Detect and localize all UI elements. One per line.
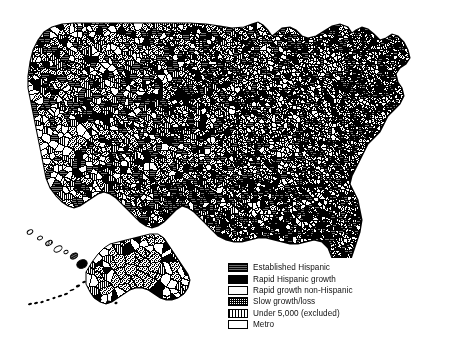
legend-label-metro: Metro xyxy=(253,320,274,329)
legend-item-established-hispanic: Established Hispanic xyxy=(228,262,388,273)
legend-swatch-rapid-growth-non-hispanic xyxy=(228,286,248,295)
map-legend: Established Hispanic Rapid Hispanic grow… xyxy=(228,262,388,330)
legend-item-rapid-growth-non-hispanic: Rapid growth non-Hispanic xyxy=(228,285,388,296)
legend-swatch-slow-growth-loss xyxy=(228,297,248,306)
legend-item-metro: Metro xyxy=(228,319,388,330)
legend-swatch-established-hispanic xyxy=(228,263,248,272)
legend-label-under-5000-excluded: Under 5,000 (excluded) xyxy=(253,309,340,318)
legend-label-rapid-growth-non-hispanic: Rapid growth non-Hispanic xyxy=(253,286,353,295)
legend-swatch-rapid-hispanic-growth xyxy=(228,275,248,284)
map-figure: Established Hispanic Rapid Hispanic grow… xyxy=(0,0,456,340)
legend-label-slow-growth-loss: Slow growth/loss xyxy=(253,297,315,306)
legend-swatch-under-5000-excluded xyxy=(228,309,248,318)
legend-item-under-5000-excluded: Under 5,000 (excluded) xyxy=(228,308,388,319)
legend-swatch-metro xyxy=(228,320,248,329)
legend-label-established-hispanic: Established Hispanic xyxy=(253,263,330,272)
legend-label-rapid-hispanic-growth: Rapid Hispanic growth xyxy=(253,275,336,284)
legend-item-slow-growth-loss: Slow growth/loss xyxy=(228,296,388,307)
legend-item-rapid-hispanic-growth: Rapid Hispanic growth xyxy=(228,273,388,284)
